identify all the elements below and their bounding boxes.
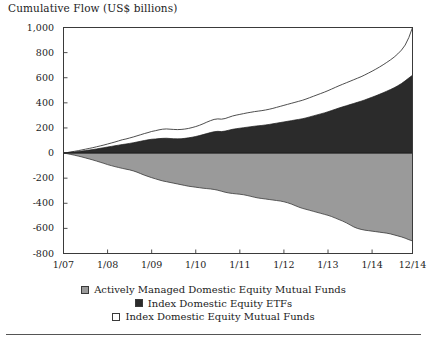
legend-item-active-managed: Actively Managed Domestic Equity Mutual … [0,283,427,297]
legend-label-index-mutual-funds: Index Domestic Equity Mutual Funds [125,311,314,322]
legend-label-active-managed: Actively Managed Domestic Equity Mutual … [94,284,346,295]
x-axis-tick-label: 1/08 [97,260,118,270]
legend-item-index-mutual-funds: Index Domestic Equity Mutual Funds [0,310,427,324]
x-axis-tick-label: 1/10 [185,260,206,270]
legend-swatch-index-etfs [135,299,143,307]
chart-legend: Actively Managed Domestic Equity Mutual … [0,283,427,324]
x-axis-tick-label: 12/14 [399,260,426,270]
x-axis-tick-label: 1/09 [141,260,162,270]
legend-item-index-etfs: Index Domestic Equity ETFs [0,297,427,311]
x-axis-tick-label: 1/12 [273,260,294,270]
chart-figure: Cumulative Flow (US$ billions) 1,0008006… [0,0,427,348]
footer-divider [6,334,421,335]
legend-swatch-active-managed [81,286,89,294]
x-axis-tick-label: 1/07 [53,260,74,270]
legend-swatch-index-mutual-funds [112,313,120,321]
x-axis-tick-label: 1/11 [229,260,250,270]
x-axis-tick-label: 1/14 [361,260,382,270]
x-axis-tick-label: 1/13 [317,260,338,270]
legend-label-index-etfs: Index Domestic Equity ETFs [148,298,292,309]
